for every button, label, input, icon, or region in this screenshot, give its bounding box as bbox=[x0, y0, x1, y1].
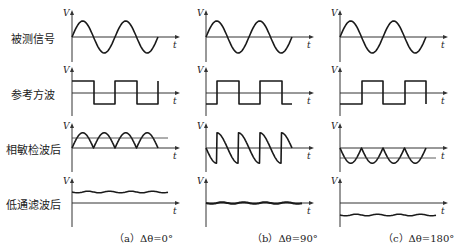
x-axis-arrow-icon bbox=[309, 35, 314, 39]
t-axis-label: t bbox=[441, 151, 445, 161]
v-axis-label: V bbox=[63, 176, 70, 186]
y-axis-arrow-icon bbox=[338, 67, 342, 72]
v-axis-label: V bbox=[331, 65, 338, 75]
row-label-after-lowpass: 低通滤波后 bbox=[2, 196, 64, 212]
x-axis-arrow-icon bbox=[443, 91, 448, 95]
lowpass-output-line bbox=[206, 202, 302, 204]
x-axis-arrow-icon bbox=[175, 146, 180, 150]
x-axis-arrow-icon bbox=[443, 35, 448, 39]
caption-a: （a）Δθ=0° bbox=[114, 230, 173, 245]
y-axis-arrow-icon bbox=[70, 123, 74, 128]
t-axis-label: t bbox=[307, 40, 311, 50]
detected-output-wave bbox=[72, 133, 158, 148]
t-axis-label: t bbox=[173, 206, 177, 216]
lowpass-output-line bbox=[340, 214, 436, 216]
x-axis-arrow-icon bbox=[443, 146, 448, 150]
x-axis-arrow-icon bbox=[309, 91, 314, 95]
x-axis-arrow-icon bbox=[443, 201, 448, 205]
v-axis-label: V bbox=[63, 65, 70, 75]
y-axis-arrow-icon bbox=[204, 67, 208, 72]
t-axis-label: t bbox=[441, 40, 445, 50]
t-axis-label: t bbox=[307, 151, 311, 161]
t-axis-label: t bbox=[307, 96, 311, 106]
v-axis-label: V bbox=[197, 176, 204, 186]
t-axis-label: t bbox=[307, 206, 311, 216]
lowpass-output-line bbox=[72, 191, 168, 193]
t-axis-label: t bbox=[173, 96, 177, 106]
x-axis-arrow-icon bbox=[309, 201, 314, 205]
x-axis-arrow-icon bbox=[175, 201, 180, 205]
y-axis-arrow-icon bbox=[70, 67, 74, 72]
row-label-reference-square-wave: 参考方波 bbox=[2, 86, 64, 102]
y-axis-arrow-icon bbox=[70, 178, 74, 183]
detected-output-wave bbox=[340, 148, 426, 163]
x-axis-arrow-icon bbox=[175, 91, 180, 95]
row-label-measured-signal: 被测信号 bbox=[2, 30, 64, 46]
t-axis-label: t bbox=[441, 206, 445, 216]
caption-c: （c）Δθ=180° bbox=[383, 230, 454, 245]
y-axis-arrow-icon bbox=[338, 10, 342, 15]
v-axis-label: V bbox=[63, 121, 70, 131]
v-axis-label: V bbox=[331, 176, 338, 186]
v-axis-label: V bbox=[331, 121, 338, 131]
y-axis-arrow-icon bbox=[70, 10, 74, 15]
t-axis-label: t bbox=[441, 96, 445, 106]
caption-b: （b）Δθ=90° bbox=[252, 230, 318, 245]
x-axis-arrow-icon bbox=[309, 146, 314, 150]
y-axis-arrow-icon bbox=[204, 123, 208, 128]
v-axis-label: V bbox=[63, 8, 70, 18]
v-axis-label: V bbox=[197, 121, 204, 131]
y-axis-arrow-icon bbox=[338, 178, 342, 183]
t-axis-label: t bbox=[173, 151, 177, 161]
y-axis-arrow-icon bbox=[338, 123, 342, 128]
y-axis-arrow-icon bbox=[204, 178, 208, 183]
t-axis-label: t bbox=[173, 40, 177, 50]
row-label-after-phase-detection: 相敏检波后 bbox=[2, 141, 64, 157]
x-axis-arrow-icon bbox=[175, 35, 180, 39]
y-axis-arrow-icon bbox=[204, 10, 208, 15]
v-axis-label: V bbox=[197, 8, 204, 18]
v-axis-label: V bbox=[197, 65, 204, 75]
v-axis-label: V bbox=[331, 8, 338, 18]
